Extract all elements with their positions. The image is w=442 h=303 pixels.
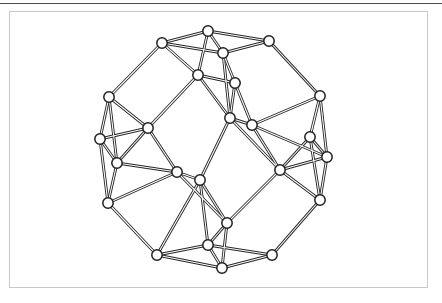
graph-edge-highlight xyxy=(108,163,117,203)
graph-edge-highlight xyxy=(223,41,269,53)
graph-edge-highlight xyxy=(227,170,280,223)
graph-edge-highlight xyxy=(235,83,252,125)
graph-edge-highlight xyxy=(222,255,272,268)
graph-edge-highlight xyxy=(109,43,162,97)
graph-vertex xyxy=(103,198,113,208)
graph-edge-highlight xyxy=(200,118,230,180)
graph-edge-highlight xyxy=(280,170,320,200)
graph-edge-highlight xyxy=(208,245,272,255)
graph-edge-highlight xyxy=(157,245,208,255)
graph-edge-highlight xyxy=(269,41,320,96)
graph-edge-highlight xyxy=(208,31,269,41)
graph-edge-highlight xyxy=(117,163,177,172)
graph-vertex xyxy=(264,36,274,46)
polyhedron-graph xyxy=(0,0,442,303)
graph-vertex xyxy=(172,167,182,177)
graph-edge-highlight xyxy=(108,203,157,255)
graph-vertex xyxy=(157,38,167,48)
graph-vertex xyxy=(230,78,240,88)
graph-vertex xyxy=(225,113,235,123)
graph-vertex xyxy=(203,26,213,36)
graph-edge-highlight xyxy=(148,128,177,172)
graph-vertex xyxy=(112,158,122,168)
graph-vertex xyxy=(104,92,114,102)
graph-edge-highlight xyxy=(252,96,320,125)
graph-edge-highlight xyxy=(109,97,148,128)
graph-edge-highlight xyxy=(310,96,320,137)
graph-edge-highlight xyxy=(198,31,208,75)
graph-vertex xyxy=(95,134,105,144)
graph-vertex xyxy=(193,70,203,80)
graph-vertex xyxy=(305,132,315,142)
graph-vertex xyxy=(218,48,228,58)
graph-vertex xyxy=(275,165,285,175)
graph-vertex xyxy=(152,250,162,260)
graph-edge-highlight xyxy=(162,31,208,43)
graph-vertex xyxy=(267,250,277,260)
graph-vertex xyxy=(247,120,257,130)
graph-edge-highlight xyxy=(157,255,222,268)
graph-edge-highlight xyxy=(108,172,177,203)
graph-edge-highlight xyxy=(320,157,327,200)
graph-edge-highlight xyxy=(148,75,198,128)
graph-vertex xyxy=(322,152,332,162)
graph-vertex xyxy=(315,195,325,205)
figure-page xyxy=(0,0,442,303)
graph-vertex xyxy=(217,263,227,273)
graph-vertex xyxy=(315,91,325,101)
graph-vertex xyxy=(143,123,153,133)
graph-vertex xyxy=(203,240,213,250)
graph-edge-highlight xyxy=(100,97,109,139)
graph-edge-highlight xyxy=(272,200,320,255)
graph-vertex xyxy=(222,218,232,228)
graph-vertex xyxy=(195,175,205,185)
graph-edge-highlight xyxy=(157,180,200,255)
